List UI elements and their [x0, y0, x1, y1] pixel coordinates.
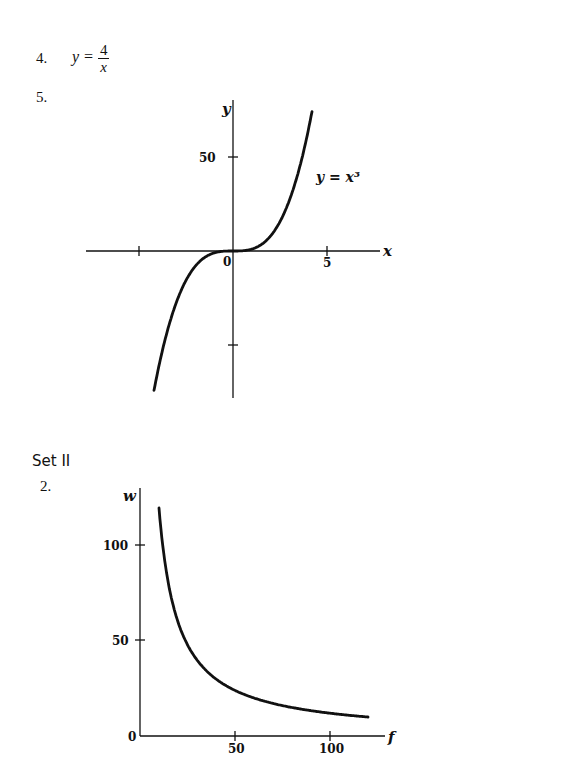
- x-tick-label-5: 5: [323, 256, 331, 270]
- hyperbola-curve: [159, 508, 368, 717]
- curve-label: y = x³: [315, 169, 360, 185]
- w-tick-label-100: 100: [103, 539, 128, 553]
- w-tick-label-50: 50: [112, 634, 129, 648]
- f-axis-label: f: [387, 728, 397, 746]
- x-axis-label: x: [382, 242, 393, 260]
- origin-label: 0: [223, 255, 231, 269]
- f-tick-label-100: 100: [319, 742, 344, 756]
- cubic-chart: y x 50 0 5 y = x³: [0, 0, 562, 420]
- y-tick-label-50: 50: [199, 151, 216, 165]
- f-tick-label-50: 50: [228, 742, 245, 756]
- w-axis-label: w: [123, 487, 137, 505]
- y-axis-label: y: [221, 100, 232, 118]
- origin-label: 0: [128, 730, 136, 744]
- hyperbola-chart: w f 100 50 0 50 100: [0, 420, 562, 776]
